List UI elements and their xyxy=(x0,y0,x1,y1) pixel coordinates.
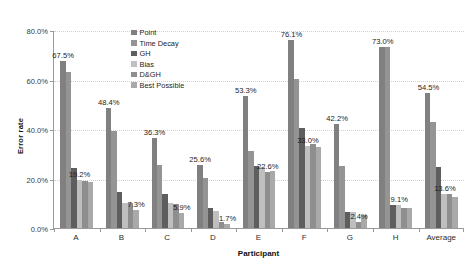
y-tick-label: 80.0% xyxy=(26,27,48,36)
legend-swatch-icon xyxy=(131,72,137,78)
x-tick-label: C xyxy=(144,233,190,247)
bar-group xyxy=(236,31,282,228)
bar-value-label: 1.7% xyxy=(219,214,236,223)
bar-value-label: 7.3% xyxy=(128,200,145,209)
bar-value-label: 73.0% xyxy=(372,37,394,46)
x-tick-mark xyxy=(419,228,420,232)
x-tick-label: D xyxy=(190,233,236,247)
legend-item[interactable]: Point xyxy=(131,28,184,37)
bar-value-label: 76.1% xyxy=(281,30,303,39)
bar[interactable] xyxy=(316,147,321,228)
legend-item[interactable]: Bias xyxy=(131,59,184,68)
bar[interactable] xyxy=(270,171,275,228)
legend-swatch-icon xyxy=(131,30,137,36)
bar-group xyxy=(419,31,465,228)
bar-value-label: 5.9% xyxy=(173,203,190,212)
x-axis-tick-labels: ABCDEFGHAverage xyxy=(53,233,464,247)
x-tick-label: H xyxy=(373,233,419,247)
legend-label: GH xyxy=(140,49,151,58)
bar[interactable] xyxy=(452,197,457,228)
x-tick-mark xyxy=(54,228,55,232)
x-tick-mark xyxy=(100,228,101,232)
x-tick-mark xyxy=(236,228,237,232)
bar-value-label: 48.4% xyxy=(98,98,120,107)
bar[interactable] xyxy=(88,182,93,228)
bar-value-label: 13.6% xyxy=(434,184,456,193)
x-axis-title: Participant xyxy=(53,249,464,258)
bar-group-inner xyxy=(197,31,230,228)
bar-group xyxy=(191,31,237,228)
x-tick-label: G xyxy=(327,233,373,247)
bar-value-label: 22.6% xyxy=(257,162,279,171)
legend-swatch-icon xyxy=(131,40,137,46)
legend-label: D&GH xyxy=(140,70,161,79)
bar-value-label: 9.1% xyxy=(391,195,408,204)
bar-group-inner xyxy=(425,31,458,228)
x-tick-mark xyxy=(145,228,146,232)
plot-area: 67.5%19.2%48.4%7.3%36.3%5.9%25.6%1.7%53.… xyxy=(53,31,464,229)
legend-swatch-icon xyxy=(131,51,137,57)
x-tick-mark xyxy=(463,228,464,232)
legend-swatch-icon xyxy=(131,61,137,67)
bar-value-label: 33.0% xyxy=(297,136,319,145)
legend-item[interactable]: Time Decay xyxy=(131,38,184,47)
bar-value-label: 67.5% xyxy=(52,51,74,60)
bar-group xyxy=(282,31,328,228)
bar-value-label: 36.3% xyxy=(144,128,166,137)
y-tick-label: 60.0% xyxy=(26,76,48,85)
y-tick-label: 0.0% xyxy=(31,225,48,234)
bar[interactable] xyxy=(133,210,138,228)
bar[interactable] xyxy=(224,224,229,228)
x-tick-label: Average xyxy=(418,233,464,247)
bar-group xyxy=(54,31,100,228)
bar-value-label: 54.5% xyxy=(418,83,440,92)
legend-item[interactable]: GH xyxy=(131,49,184,58)
bar-group-inner xyxy=(334,31,367,228)
legend-item[interactable]: D&GH xyxy=(131,70,184,79)
x-tick-mark xyxy=(282,228,283,232)
y-tick-label: 20.0% xyxy=(26,175,48,184)
x-tick-label: E xyxy=(236,233,282,247)
bar-value-label: 42.2% xyxy=(326,114,348,123)
x-tick-mark xyxy=(191,228,192,232)
legend-label: Best Possible xyxy=(140,81,185,90)
bar-group-inner xyxy=(243,31,276,228)
y-axis-tick-labels: 0.0%20.0%40.0%60.0%80.0% xyxy=(10,0,48,271)
x-tick-label: A xyxy=(53,233,99,247)
legend: PointTime DecayGHBiasD&GHBest Possible xyxy=(131,28,184,90)
bar[interactable] xyxy=(179,213,184,228)
bar-value-label: 25.6% xyxy=(189,155,211,164)
x-tick-mark xyxy=(373,228,374,232)
bar-value-label: 53.3% xyxy=(235,86,257,95)
x-tick-label: F xyxy=(281,233,327,247)
bar-group xyxy=(327,31,373,228)
bar[interactable] xyxy=(407,208,412,228)
bar-chart: Error rate 0.0%20.0%40.0%60.0%80.0% 67.5… xyxy=(0,0,474,271)
bar-group-inner xyxy=(288,31,321,228)
legend-swatch-icon xyxy=(131,82,137,88)
x-tick-label: B xyxy=(99,233,145,247)
legend-label: Point xyxy=(140,28,157,37)
bar-value-label: 19.2% xyxy=(69,170,91,179)
x-tick-mark xyxy=(327,228,328,232)
bar[interactable] xyxy=(385,47,390,228)
bar-group-inner xyxy=(60,31,93,228)
legend-label: Bias xyxy=(140,60,154,69)
y-tick-label: 40.0% xyxy=(26,126,48,135)
legend-item[interactable]: Best Possible xyxy=(131,80,184,89)
legend-label: Time Decay xyxy=(140,39,179,48)
bar-value-label: 2.4% xyxy=(350,212,367,221)
